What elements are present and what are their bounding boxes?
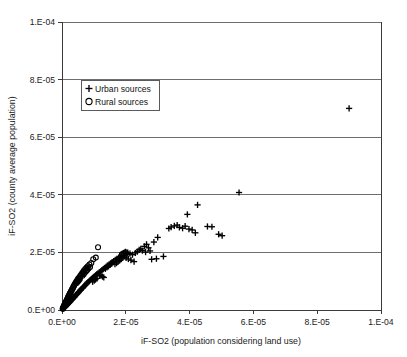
- x-tick-label: 2.E-05: [113, 317, 139, 327]
- x-axis-title: iF-SO2 (population considering land use): [141, 336, 301, 346]
- y-axis-title: iF-SO2 (county average population): [7, 96, 17, 235]
- y-tick-label: 8.E-05: [30, 75, 56, 85]
- y-tick-label: 4.E-05: [30, 190, 56, 200]
- y-tick-label: 6.E-05: [30, 132, 56, 142]
- chart-canvas: 0.E+002.E-054.E-056.E-058.E-051.E-04 0.E…: [0, 0, 407, 357]
- y-tick-label: 1.E-04: [30, 17, 56, 27]
- legend-label-rural: Rural sources: [95, 97, 148, 107]
- x-tick-label: 6.E-05: [241, 317, 267, 327]
- chart-legend: Urban sources Rural sources: [81, 80, 159, 110]
- scatter-chart: 0.E+002.E-054.E-056.E-058.E-051.E-04 0.E…: [0, 0, 407, 357]
- x-tick-label: 4.E-05: [177, 317, 203, 327]
- legend-item-rural: Rural sources: [86, 97, 148, 107]
- x-tick-label: 1.E-04: [368, 317, 394, 327]
- y-tick-label: 0.E+00: [28, 305, 56, 315]
- x-tick-label: 8.E-05: [305, 317, 331, 327]
- legend-item-urban: Urban sources: [86, 84, 151, 94]
- y-tick-label: 2.E-05: [30, 247, 56, 257]
- legend-label-urban: Urban sources: [95, 84, 151, 94]
- x-tick-label: 0.E+00: [48, 317, 76, 327]
- chart-background: [0, 0, 407, 357]
